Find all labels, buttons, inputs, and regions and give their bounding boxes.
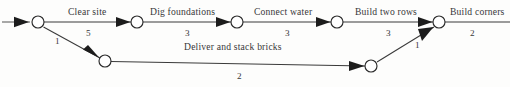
node-6[interactable] <box>99 55 111 67</box>
duration-branch-down: 1 <box>55 37 60 46</box>
duration-branch-up: 1 <box>415 41 420 50</box>
label-dig-foundations: Dig foundations <box>150 7 215 17</box>
edge-build-two-rows <box>343 17 433 27</box>
node-5[interactable] <box>433 16 445 28</box>
edge-dig-foundations <box>143 17 231 27</box>
edge-clear-site <box>44 17 131 27</box>
label-connect-water: Connect water <box>254 7 312 17</box>
label-build-corners: Build corners <box>450 7 505 17</box>
network-diagram: Clear site 5 Dig foundations 3 Connect w… <box>0 0 510 87</box>
label-build-two-rows: Build two rows <box>355 7 417 17</box>
label-clear-site: Clear site <box>68 7 107 17</box>
node-1[interactable] <box>32 16 44 28</box>
edge-start-to-node1 <box>2 17 30 27</box>
label-deliver-and-stack-bricks: Deliver and stack bricks <box>184 42 282 52</box>
node-3[interactable] <box>231 16 243 28</box>
duration-dig-foundations: 3 <box>185 29 190 38</box>
node-2[interactable] <box>131 16 143 28</box>
duration-connect-water: 3 <box>285 29 290 38</box>
node-4[interactable] <box>331 16 343 28</box>
edge-branch-down <box>44 27 101 58</box>
node-7[interactable] <box>365 60 377 72</box>
edge-connect-water <box>243 17 331 27</box>
duration-build-corners: 2 <box>470 29 475 38</box>
duration-clear-site: 5 <box>86 29 91 38</box>
duration-deliver-and-stack-bricks: 2 <box>237 72 242 81</box>
duration-build-two-rows: 3 <box>386 29 391 38</box>
edge-deliver-and-stack-bricks <box>111 61 365 71</box>
